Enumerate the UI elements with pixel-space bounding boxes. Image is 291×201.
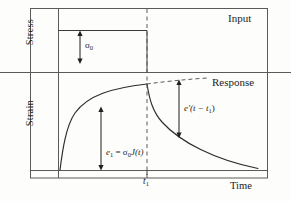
recovery-eq-close: ) [212,103,215,113]
sigma0-label: σ0 [85,41,93,51]
t1-tick-label: t1 [143,177,149,187]
recovery-curve [147,84,258,169]
response-panel-label: Response [212,77,254,88]
time-axis-label: Time [230,181,252,192]
creep-eq-equals-sigma: = σ [113,147,127,157]
input-panel-label: Input [228,13,251,24]
creep-equation-label: e1 = σ0J(t) [106,148,143,158]
sigma0-arrow-head-down [77,59,82,65]
sigma0-subscript: 0 [90,44,93,51]
strain-axis-label: Strain [25,100,36,126]
e1-arrow-head-down [98,165,103,171]
e1-arrow-head-up [98,107,103,113]
creep-eq-compliance: J(t) [131,147,144,157]
stress-axis-label: Stress [25,19,36,45]
sigma0-arrow-head-up [77,31,82,37]
t1-tick-subscript: 1 [146,180,149,187]
recovery-equation-label: e′(t − t1) [184,104,215,114]
creep-asymptote-extension [147,78,207,84]
recovery-eq-body: ′(t − t [188,103,209,113]
figure-canvas [0,0,291,201]
creep-recovery-figure: Input Response Stress Strain Time t1 σ0 … [0,0,291,201]
